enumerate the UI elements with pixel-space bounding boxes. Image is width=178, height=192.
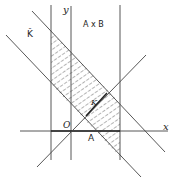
diagram-canvas: y A x B K̂ K O A x bbox=[0, 0, 178, 192]
y-axis-label: y bbox=[63, 5, 69, 15]
origin-label: O bbox=[63, 121, 70, 130]
k-label: K bbox=[91, 99, 97, 107]
x-axis-label: x bbox=[163, 122, 169, 132]
shaded-region bbox=[51, 31, 120, 157]
k-hat-label: K̂ bbox=[27, 30, 33, 39]
point-a-label: A bbox=[88, 134, 94, 143]
product-label: A x B bbox=[83, 21, 104, 29]
